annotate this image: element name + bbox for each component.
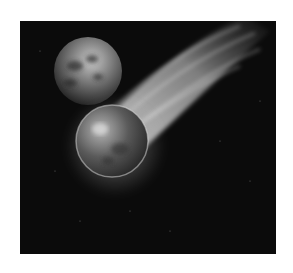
meteor-illustration [20,21,276,254]
space-image [20,21,276,254]
meteor [76,105,148,177]
planet [54,37,122,105]
